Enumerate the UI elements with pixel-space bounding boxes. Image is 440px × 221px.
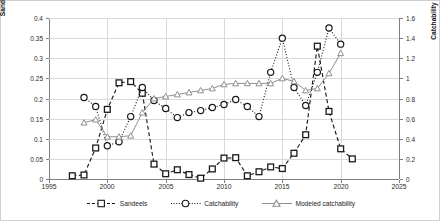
data-point-marker: [279, 166, 285, 172]
legend-label: Sandeels: [120, 200, 148, 207]
data-point-marker: [128, 114, 134, 120]
y-axis-right-tick: [400, 38, 403, 39]
legend-item-catchability: Catchability: [171, 199, 238, 208]
legend-swatch-circle-dotted: [171, 199, 201, 208]
data-point-marker: [93, 103, 99, 109]
data-point-marker: [291, 150, 297, 156]
data-point-marker: [256, 114, 262, 120]
x-axis-tick-label: 2025: [383, 183, 415, 190]
data-point-marker: [93, 117, 99, 122]
y-axis-right-tick-label: 0.6: [406, 116, 415, 123]
data-point-marker: [326, 70, 332, 75]
data-point-marker: [338, 41, 344, 47]
data-point-marker: [69, 173, 75, 179]
data-point-marker: [244, 173, 250, 179]
data-point-marker: [209, 166, 215, 172]
legend-label: Catchability: [204, 200, 238, 207]
data-point-marker: [163, 171, 169, 177]
data-point-marker: [139, 84, 145, 90]
y-axis-right-tick-label: 1.4: [406, 35, 415, 42]
data-series-layer: [49, 18, 399, 179]
y-axis-left-tick-label: 0.15: [1, 116, 43, 123]
data-point-marker: [163, 105, 169, 111]
data-point-marker: [338, 50, 344, 55]
x-axis-tick-label: 2015: [266, 183, 298, 190]
y-axis-right-tick: [400, 119, 403, 120]
legend-label: Modeled catchability: [295, 200, 355, 207]
y-axis-right-tick: [400, 18, 403, 19]
data-point-marker: [314, 43, 320, 49]
data-point-marker: [104, 143, 110, 149]
y-axis-right-tick-label: 0.2: [406, 156, 415, 163]
data-point-marker: [81, 172, 87, 178]
legend-item-modeled-catchability: Modeled catchability: [262, 199, 355, 208]
data-point-marker: [303, 102, 309, 108]
data-point-marker: [291, 84, 297, 90]
data-point-marker: [209, 104, 215, 110]
data-point-marker: [256, 169, 262, 175]
data-point-marker: [326, 108, 332, 114]
y-axis-right-tick: [400, 58, 403, 59]
y-axis-left-tick-label: 0.05: [1, 156, 43, 163]
y-axis-right-tick-label: 1.6: [406, 15, 415, 22]
data-point-marker: [139, 90, 145, 96]
series-sandeels: [69, 43, 355, 181]
x-axis-tick-label: 2000: [91, 183, 123, 190]
data-point-marker: [326, 25, 332, 31]
y-axis-left-tick-label: 0.4: [1, 15, 43, 22]
data-point-marker: [93, 145, 99, 151]
legend-item-sandeels: Sandeels: [87, 199, 148, 208]
data-point-marker: [221, 101, 227, 107]
y-axis-right-tick-label: 0.4: [406, 136, 415, 143]
legend-swatch-triangle-solid: [262, 199, 292, 208]
x-axis-tick-label: 1995: [33, 183, 65, 190]
y-axis-right-tick-label: 1.2: [406, 55, 415, 62]
y-axis-right-tick: [400, 159, 403, 160]
data-point-marker: [198, 175, 204, 181]
y-axis-left-tick-label: 0.35: [1, 35, 43, 42]
data-point-marker: [268, 69, 274, 75]
data-point-marker: [221, 155, 227, 161]
data-point-marker: [151, 161, 157, 167]
y-axis-right-tick-label: 1: [406, 75, 410, 82]
data-point-marker: [174, 167, 180, 173]
data-point-marker: [104, 106, 110, 112]
data-point-marker: [186, 109, 192, 115]
y-axis-right-tick: [400, 179, 403, 180]
y-axis-right-tick: [400, 78, 403, 79]
data-point-marker: [314, 69, 320, 75]
data-point-marker: [279, 75, 285, 80]
chart-legend: Sandeels Catchability Modeled catchabili…: [1, 197, 440, 219]
y-axis-right-tick-label: 0: [406, 176, 410, 183]
y-axis-right-tick-label: 0.8: [406, 96, 415, 103]
data-point-marker: [233, 155, 239, 161]
data-point-marker: [186, 172, 192, 178]
data-point-marker: [128, 79, 134, 85]
x-axis-tick-label: 2020: [325, 183, 357, 190]
x-axis-tick-label: 2010: [208, 183, 240, 190]
y-axis-left-tick-label: 0.25: [1, 75, 43, 82]
data-point-marker: [268, 164, 274, 170]
y-axis-right-tick: [400, 139, 403, 140]
series-line: [84, 53, 341, 137]
y-axis-right-tick: [400, 99, 403, 100]
series-modeled-catchability: [81, 50, 344, 139]
y-axis-left-tick-label: 0.1: [1, 136, 43, 143]
data-point-marker: [303, 132, 309, 138]
data-point-marker: [81, 94, 87, 100]
x-axis-tick-label: 2005: [150, 183, 182, 190]
data-point-marker: [279, 35, 285, 41]
y-axis-left-tick-label: 0.3: [1, 55, 43, 62]
data-point-marker: [338, 146, 344, 152]
legend-swatch-square-dashed: [87, 199, 117, 208]
plot-area: [49, 18, 399, 179]
y-axis-left-tick-label: 0.2: [1, 96, 43, 103]
data-point-marker: [116, 80, 122, 86]
series-line: [72, 46, 352, 178]
chart-container: Sandeels (percent of predator weight) Ca…: [0, 0, 440, 221]
data-point-marker: [349, 156, 355, 162]
data-point-marker: [233, 96, 239, 102]
data-point-marker: [244, 103, 250, 109]
data-point-marker: [198, 107, 204, 113]
y-axis-right-title: Catchability: [430, 0, 437, 61]
